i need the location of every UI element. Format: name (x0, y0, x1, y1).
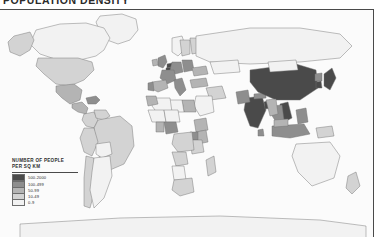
legend-label: 10-49 (28, 194, 39, 199)
country-nigeria (164, 122, 178, 134)
country-portugal (148, 82, 154, 91)
country-madagascar (206, 156, 216, 176)
title-clip-strip: POPULATION DENSITY (0, 0, 379, 9)
country-kazakhstan (210, 60, 240, 74)
country-papua-new-guinea (316, 126, 334, 138)
legend-class-list: 500-2000100-49950-9910-490-9 (12, 175, 86, 206)
country-ukraine (192, 66, 208, 76)
country-russia (196, 28, 352, 64)
country-morocco (146, 96, 158, 106)
country-egypt (182, 100, 196, 112)
page-title: POPULATION DENSITY (3, 0, 129, 6)
country-niger (164, 110, 180, 122)
legend-label: 50-99 (28, 188, 39, 193)
country-philippines (296, 108, 308, 124)
country-sweden (180, 40, 190, 56)
country-namibia (172, 166, 186, 180)
country-pakistan (236, 90, 250, 104)
legend-divider (12, 172, 78, 173)
country-turkey (190, 78, 208, 88)
country-ghana (156, 122, 164, 132)
country-poland (182, 60, 194, 72)
country-mongolia (268, 60, 298, 72)
country-malaysia (274, 119, 288, 127)
country-north-korea (315, 73, 322, 81)
legend-swatch (12, 199, 25, 206)
map-legend: NUMBER OF PEOPLE PER SQ KM 500-2000100-4… (12, 158, 86, 206)
legend-row: 0-9 (12, 200, 86, 206)
country-canada (30, 23, 110, 60)
legend-heading-line-2: PER SQ KM (12, 164, 86, 170)
country-ireland (152, 59, 158, 66)
population-density-figure: POPULATION DENSITY NUMBER OF PEOPLE PER … (0, 0, 379, 237)
legend-label: 500-2000 (28, 175, 46, 180)
legend-label: 0-9 (28, 200, 34, 205)
country-sri-lanka (258, 129, 264, 136)
legend-label: 100-499 (28, 182, 44, 187)
country-south-korea (316, 81, 322, 88)
